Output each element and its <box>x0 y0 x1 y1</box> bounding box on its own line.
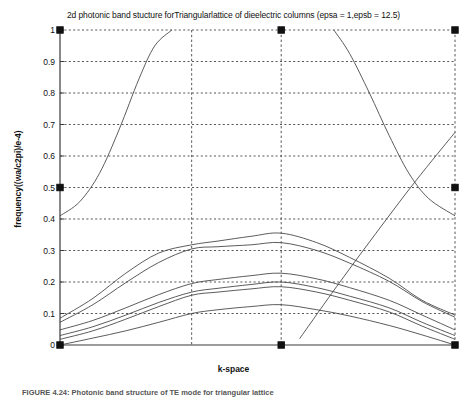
band-curve <box>60 30 172 216</box>
symmetry-point-marker <box>57 342 63 348</box>
symmetry-point-marker <box>57 184 63 190</box>
y-tick-label: 0.7 <box>43 120 55 130</box>
symmetry-point-marker <box>452 342 458 348</box>
y-tick-label: 0.1 <box>43 309 55 319</box>
band-structure-plot: 00.10.20.30.40.50.60.70.80.91tmkt <box>0 24 467 354</box>
plot-area: 00.10.20.30.40.50.60.70.80.91tmkt freque… <box>0 24 467 354</box>
x-axis-label: k-space <box>0 364 467 374</box>
symmetry-point-marker <box>452 184 458 190</box>
y-tick-label: 0.3 <box>43 246 55 256</box>
y-tick-label: 1 <box>50 25 55 35</box>
y-tick-label: 0.8 <box>43 88 55 98</box>
y-tick-label: 0 <box>50 340 55 350</box>
chart-title: 2d photonic band stucture forTriangularl… <box>0 10 467 20</box>
y-tick-label: 0.2 <box>43 277 55 287</box>
y-tick-label: 0.6 <box>43 151 55 161</box>
symmetry-point-marker <box>278 342 284 348</box>
symmetry-point-marker <box>278 27 284 33</box>
y-tick-label: 0.5 <box>43 183 55 193</box>
y-tick-label: 0.9 <box>43 57 55 67</box>
band-curve <box>60 233 455 318</box>
photonic-band-structure-figure: 2d photonic band stucture forTriangularl… <box>0 0 467 399</box>
y-tick-label: 0.4 <box>43 214 55 224</box>
band-curve <box>60 287 455 340</box>
figure-caption: FIGURE 4.24: Photonic band structure of … <box>22 388 452 397</box>
symmetry-point-marker <box>57 27 63 33</box>
y-axis-label: frequency((wa/c2pi)/e-4) <box>13 99 23 259</box>
symmetry-point-marker <box>452 27 458 33</box>
